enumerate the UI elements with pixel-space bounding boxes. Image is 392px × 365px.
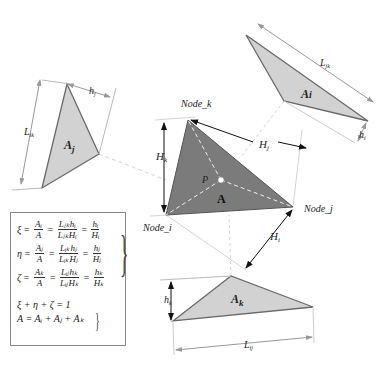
guide-i-to-ak [166,215,246,270]
formula-area: A = Aᵢ + Aⱼ + Aₖ [17,311,119,325]
ext-line [313,307,314,343]
ljk-label: Ljk [319,57,330,69]
node-j-label: Node_j [303,203,333,214]
height-hi-arrow [246,210,292,268]
zeta-symbol: ζ [17,272,21,283]
node-i-label: Node_i [142,222,172,233]
fraction: AᵢA [34,219,43,240]
ai-label: Ai [300,87,312,101]
equals: = [83,272,90,283]
equals: = [23,272,30,283]
ext-line [160,276,231,280]
fraction: hᵢHᵢ [91,219,99,240]
height-hj-arrow-b [278,142,306,148]
ext-line [12,188,42,190]
formula-box: ξ = AᵢA = LⱼₖhᵢLⱼₖHᵢ = hᵢHᵢ η = AⱼA = Lᵢ… [10,212,126,346]
point-p-label: P [201,174,208,185]
equals: = [81,224,88,235]
main-triangle [164,120,306,268]
right-brace-icon: } [95,303,100,337]
fraction: hⱼHⱼ [93,243,102,264]
fraction: hₖHₖ [94,267,105,288]
equals: = [49,272,56,283]
lik-label: Lik [23,126,34,138]
right-brace-icon: } [120,217,128,289]
formula-sum: ξ + η + ζ = 1 [17,297,119,311]
guide-k-ext [155,117,195,120]
equals: = [82,248,89,259]
xi-symbol: ξ [17,224,21,235]
fraction: LᵢₖhⱼLᵢₖHⱼ [59,243,78,264]
fraction: LⱼₖhᵢLⱼₖHᵢ [58,219,77,240]
equals: = [24,248,31,259]
lij-label: Lij [243,339,253,351]
guide-j-vert [293,130,302,207]
area-a-label: A [217,192,226,206]
hj-label: Hj [258,138,269,152]
hi-label: Hi [269,230,280,244]
fraction: AⱼA [35,243,45,264]
hi-small-label: hi [359,129,366,141]
ext-line [173,321,174,355]
eta-symbol: η [17,248,22,259]
barycentric-diagram: Node_k Node_i Node_j P A Hk Hj Hi Aj Lik… [0,0,392,365]
equals: = [48,248,55,259]
guide-ak-to-main [229,215,231,276]
ext-line [99,88,116,154]
equals: = [23,224,30,235]
equals: = [47,224,54,235]
fraction: LᵢⱼhₖLᵢⱼHₖ [60,267,79,288]
triangle-ai [246,35,368,121]
fraction: AₖA [34,267,46,288]
hj-small-label: hj [89,85,96,97]
triangle-aj [42,84,99,188]
subtriangle-k [160,276,314,355]
ext-line [42,80,70,84]
formula-xi: ξ = AᵢA = LⱼₖhᵢLⱼₖHᵢ = hᵢHᵢ [17,217,119,241]
node-k-label: Node_k [180,98,212,109]
point-p [218,177,224,183]
hk-label: Hk [155,150,168,164]
triangle-a [166,120,293,215]
formula-eta: η = AⱼA = LᵢₖhⱼLᵢₖHⱼ = hⱼHⱼ [17,241,119,265]
formula-zeta: ζ = AₖA = LᵢⱼhₖLᵢⱼHₖ = hₖHₖ [17,265,119,289]
